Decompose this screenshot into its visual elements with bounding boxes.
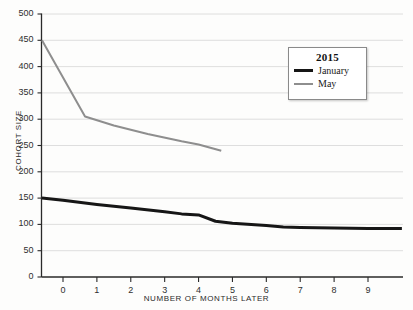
legend-item-may: May (289, 78, 366, 89)
y-tick-label: 500 (4, 8, 34, 18)
y-tick-label: 350 (4, 87, 34, 97)
legend: 2015 January May (288, 47, 367, 100)
y-axis-title: COHORT SIZE (14, 101, 23, 181)
y-tick-label: 150 (4, 192, 34, 202)
legend-item-january: January (289, 65, 366, 76)
x-axis-title: NUMBER OF MONTHS LATER (0, 294, 413, 303)
chart-container: 050100150200250300350400450500 012345678… (0, 0, 413, 310)
legend-line-swatch-may (294, 83, 313, 85)
y-tick-label: 400 (4, 61, 34, 71)
legend-title: 2015 (289, 51, 366, 63)
legend-label-january: January (318, 65, 349, 76)
y-tick-label: 450 (4, 34, 34, 44)
y-tick-label: 100 (4, 218, 34, 228)
legend-line-swatch-january (294, 69, 313, 72)
y-tick-label: 50 (4, 245, 34, 255)
legend-label-may: May (318, 78, 336, 89)
y-tick-label: 0 (4, 271, 34, 281)
